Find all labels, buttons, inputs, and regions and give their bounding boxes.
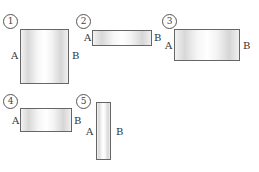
- label-a-5: A: [86, 126, 93, 138]
- cylinder-rect-1: [20, 29, 69, 84]
- cylinder-rect-5: [96, 102, 111, 160]
- cylinder-rect-3: [174, 29, 240, 61]
- label-b-4: B: [74, 115, 81, 127]
- number-badge-5: 5: [76, 94, 91, 109]
- label-a-3: A: [165, 40, 172, 52]
- label-b-5: B: [116, 126, 123, 138]
- label-b-2: B: [154, 32, 161, 44]
- number-badge-4: 4: [3, 94, 18, 109]
- cylinder-rect-2: [92, 30, 152, 46]
- cylinder-rect-4: [20, 108, 72, 132]
- label-a-4: A: [12, 115, 19, 127]
- number-badge-1: 1: [3, 14, 18, 29]
- label-a-1: A: [11, 50, 18, 62]
- label-b-1: B: [72, 50, 79, 62]
- label-b-3: B: [243, 40, 250, 52]
- number-badge-2: 2: [76, 14, 91, 29]
- label-a-2: A: [84, 32, 91, 44]
- number-badge-3: 3: [162, 14, 177, 29]
